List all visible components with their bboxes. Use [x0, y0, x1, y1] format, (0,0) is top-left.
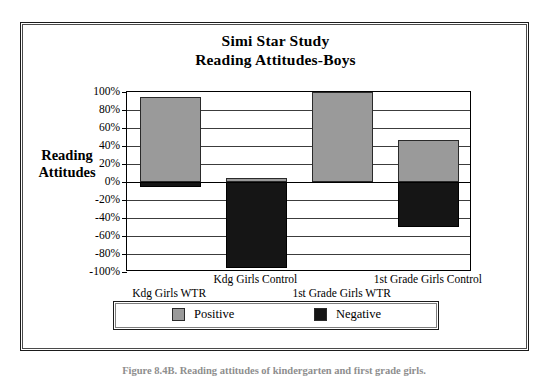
legend-inner-border — [115, 303, 437, 328]
bar-segment-positive[interactable] — [398, 140, 459, 182]
y-axis-tick — [122, 182, 127, 183]
bar-group[interactable] — [140, 92, 201, 270]
y-axis-tick — [122, 110, 127, 111]
legend-swatch-positive — [172, 308, 185, 321]
chart-title-line-1: Simi Star Study — [21, 31, 530, 50]
y-axis-tick — [122, 128, 127, 129]
y-axis-tick — [122, 92, 127, 93]
chart-legend: PositiveNegative — [113, 301, 439, 330]
category-label: 1st Grade Girls WTR — [292, 287, 390, 300]
bar-group[interactable] — [312, 92, 373, 270]
y-axis-tick-label: -80% — [95, 248, 120, 260]
legend-swatch-negative — [314, 308, 327, 321]
y-axis-title-line-1: Reading — [25, 147, 109, 164]
y-axis-tick-label: 80% — [99, 104, 120, 116]
y-axis-tick-label: -60% — [95, 230, 120, 242]
y-axis-title-line-2: Attitudes — [25, 164, 109, 181]
y-axis-title: Reading Attitudes — [25, 147, 109, 181]
chart-title: Simi Star Study Reading Attitudes-Boys — [21, 31, 530, 69]
y-axis-tick-label: -100% — [89, 266, 120, 278]
y-axis-tick-label: 0% — [105, 176, 120, 188]
figure-frame: Simi Star Study Reading Attitudes-Boys R… — [20, 22, 529, 351]
y-axis-tick-label: 100% — [93, 86, 120, 98]
y-axis-tick-label: 60% — [99, 122, 120, 134]
chart-title-line-2: Reading Attitudes-Boys — [21, 50, 530, 69]
bar-segment-negative[interactable] — [140, 182, 201, 187]
y-axis-tick-label: -40% — [95, 212, 120, 224]
bar-segment-negative[interactable] — [398, 182, 459, 227]
legend-label: Negative — [336, 308, 381, 321]
legend-entry[interactable]: Negative — [314, 308, 381, 321]
y-axis-tick-label: 20% — [99, 158, 120, 170]
bar-segment-positive[interactable] — [312, 92, 373, 182]
y-axis-tick — [122, 146, 127, 147]
category-label: Kdg Girls WTR — [132, 287, 206, 300]
bar-segment-negative[interactable] — [226, 182, 287, 268]
bar-group[interactable] — [226, 92, 287, 270]
y-axis-tick — [122, 218, 127, 219]
y-axis-tick — [122, 254, 127, 255]
figure-caption: Figure 8.4B. Reading attitudes of kinder… — [0, 364, 548, 377]
y-axis-tick-label: -20% — [95, 194, 120, 206]
y-axis-tick — [122, 200, 127, 201]
bar-group[interactable] — [398, 92, 459, 270]
y-axis-tick — [122, 236, 127, 237]
legend-label: Positive — [194, 308, 234, 321]
legend-entry[interactable]: Positive — [172, 308, 234, 321]
y-axis-tick-label: 40% — [99, 140, 120, 152]
y-axis-tick — [122, 272, 127, 273]
plot-area: 100%80%60%40%20%0%-20%-40%-60%-80%-100% — [126, 91, 471, 271]
y-axis-tick — [122, 164, 127, 165]
category-label: 1st Grade Girls Control — [374, 273, 482, 286]
category-label: Kdg Girls Control — [214, 273, 298, 286]
bar-segment-positive[interactable] — [140, 97, 201, 183]
